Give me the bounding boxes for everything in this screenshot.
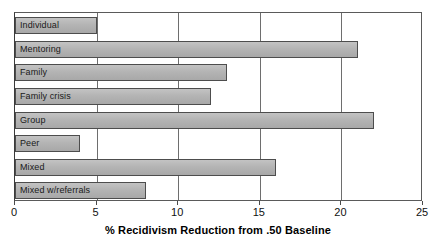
- x-axis: 0510152025: [14, 201, 422, 219]
- bar-mentoring[interactable]: Mentoring: [15, 41, 358, 58]
- bar-category-label: Group: [16, 116, 46, 125]
- bar-row: Peer: [15, 131, 421, 155]
- bar-category-label: Peer: [16, 139, 39, 148]
- x-tick-label-0: 0: [11, 205, 17, 219]
- x-tick-label-20: 20: [334, 205, 346, 219]
- bar-category-label: Mixed w/referrals: [16, 186, 90, 195]
- bar-category-label: Individual: [16, 21, 59, 30]
- bar-family[interactable]: Family: [15, 64, 227, 81]
- bar-mixed-w-referrals[interactable]: Mixed w/referrals: [15, 182, 146, 199]
- bar-category-label: Mixed: [16, 163, 45, 172]
- x-tick-label-5: 5: [93, 205, 99, 219]
- bar-series: IndividualMentoringFamilyFamily crisisGr…: [15, 13, 421, 200]
- bar-row: Mixed w/referrals: [15, 178, 421, 202]
- bar-mixed[interactable]: Mixed: [15, 159, 276, 176]
- bar-row: Family: [15, 60, 421, 84]
- bar-row: Family crisis: [15, 84, 421, 108]
- bar-group[interactable]: Group: [15, 112, 374, 129]
- bar-category-label: Family: [16, 68, 47, 77]
- bar-row: Mixed: [15, 155, 421, 179]
- bar-row: Group: [15, 108, 421, 132]
- x-axis-title: % Recidivism Reduction from .50 Baseline: [14, 224, 422, 236]
- plot-area: IndividualMentoringFamilyFamily crisisGr…: [14, 12, 422, 201]
- x-tick-label-15: 15: [253, 205, 265, 219]
- bar-row: Mentoring: [15, 37, 421, 61]
- bar-category-label: Family crisis: [16, 92, 71, 101]
- recidivism-bar-chart: IndividualMentoringFamilyFamily crisisGr…: [0, 0, 436, 246]
- x-tick-label-10: 10: [171, 205, 183, 219]
- bar-individual[interactable]: Individual: [15, 17, 97, 34]
- bar-row: Individual: [15, 13, 421, 37]
- bar-category-label: Mentoring: [16, 45, 61, 54]
- bar-peer[interactable]: Peer: [15, 135, 80, 152]
- x-tick-label-25: 25: [416, 205, 428, 219]
- bar-family-crisis[interactable]: Family crisis: [15, 88, 211, 105]
